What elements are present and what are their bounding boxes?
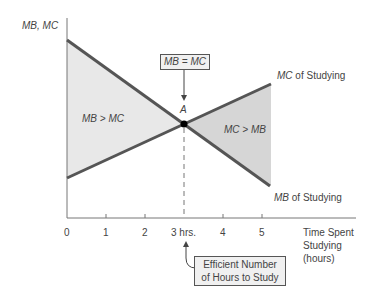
arrow-up-icon	[183, 241, 189, 247]
y-axis-title: MB, MC	[22, 20, 58, 31]
x-ticks	[106, 214, 262, 218]
tick-label-4: 4	[220, 227, 226, 238]
chart-canvas	[0, 0, 383, 296]
tick-label-3: 3 hrs.	[171, 227, 196, 238]
tick-label-2: 2	[142, 227, 148, 238]
mb-curve-label: MB of Studying	[274, 192, 342, 203]
mb-equals-mc-box: MB = MC	[160, 54, 210, 70]
efficient-hours-box: Efficient Number of Hours to Study	[194, 256, 286, 286]
x-axis-title-line2: Studying	[303, 240, 342, 251]
point-a-marker	[181, 121, 188, 128]
x-axis-title-line1: Time Spent	[303, 227, 354, 238]
tick-label-0: 0	[64, 227, 70, 238]
region-left-label: MB > MC	[82, 113, 124, 124]
mc-curve-label: MC of Studying	[277, 70, 345, 81]
tick-label-5: 5	[259, 227, 265, 238]
point-a-label: A	[180, 104, 187, 115]
mc-curve-label-rest: of Studying	[293, 70, 346, 81]
mb-curve-label-rest: of Studying	[289, 192, 342, 203]
efficient-box-line2: of Hours to Study	[195, 271, 285, 284]
tick-label-1: 1	[103, 227, 109, 238]
mb-curve-label-italic: MB	[274, 192, 289, 203]
efficient-box-line1: Efficient Number	[195, 258, 285, 271]
x-axis-title-line3: (hours)	[303, 253, 335, 264]
arrow-down-icon	[181, 95, 187, 101]
region-right-label: MC > MB	[224, 124, 266, 135]
mc-curve-label-italic: MC	[277, 70, 293, 81]
